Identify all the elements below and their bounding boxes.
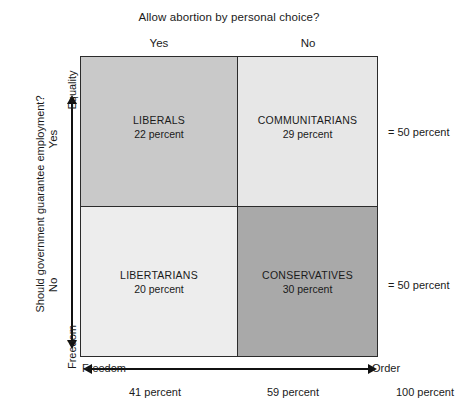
quadrant-liberals-value: 22 percent xyxy=(133,128,185,142)
quadrant-libertarians: LIBERTARIANS 20 percent xyxy=(81,207,238,356)
quadrant-liberals-label: LIBERALS xyxy=(133,114,185,128)
quadrant-plot: LIBERALS 22 percent COMMUNITARIANS 29 pe… xyxy=(80,56,378,357)
horizontal-axis-right-label: Order xyxy=(372,362,400,374)
quadrant-libertarians-value: 20 percent xyxy=(120,283,198,297)
quadrant-conservatives-label: CONSERVATIVES xyxy=(262,269,353,283)
row-total-top: = 50 percent xyxy=(388,126,449,138)
quadrant-conservatives: CONSERVATIVES 30 percent xyxy=(238,207,377,356)
grand-total: 100 percent xyxy=(382,386,468,398)
vertical-axis-arrow-icon xyxy=(71,104,73,340)
quadrant-conservatives-value: 30 percent xyxy=(262,283,353,297)
figure-canvas: Allow abortion by personal choice? Yes N… xyxy=(0,0,472,415)
vertical-axis-top-label: Equality xyxy=(66,57,78,123)
horizontal-axis-arrow-icon xyxy=(92,368,368,370)
quadrant-liberals: LIBERALS 22 percent xyxy=(81,57,238,207)
row-header-yes: Yes xyxy=(47,124,59,154)
row-axis-title: Should government guarantee employment? xyxy=(34,74,46,334)
column-header-yes: Yes xyxy=(80,37,238,49)
quadrant-communitarians: COMMUNITARIANS 29 percent xyxy=(238,57,377,207)
quadrant-conservatives-text: CONSERVATIVES 30 percent xyxy=(262,269,353,297)
quadrant-communitarians-text: COMMUNITARIANS 29 percent xyxy=(258,114,358,142)
quadrant-libertarians-text: LIBERTARIANS 20 percent xyxy=(120,269,198,297)
quadrant-liberals-text: LIBERALS 22 percent xyxy=(133,114,185,142)
quadrant-communitarians-value: 29 percent xyxy=(258,128,358,142)
vertical-axis-bottom-label: Freedom xyxy=(66,316,78,378)
row-total-bottom: = 50 percent xyxy=(388,279,449,291)
row-header-no: No xyxy=(47,270,59,300)
column-total-right: 59 percent xyxy=(248,386,338,398)
quadrant-libertarians-label: LIBERTARIANS xyxy=(120,269,198,283)
column-header-no: No xyxy=(238,37,378,49)
column-axis-title: Allow abortion by personal choice? xyxy=(80,11,378,23)
quadrant-communitarians-label: COMMUNITARIANS xyxy=(258,114,358,128)
column-total-left: 41 percent xyxy=(100,386,210,398)
horizontal-axis-left-label: Freedom xyxy=(82,362,126,374)
